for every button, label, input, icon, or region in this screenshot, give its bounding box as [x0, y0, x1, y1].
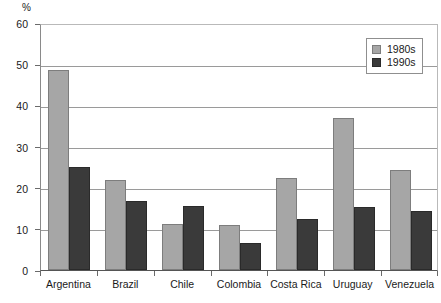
legend-swatch-1980s-icon [372, 45, 381, 54]
bar-chart: % 0102030405060 ArgentinaBrazilChileColo… [0, 0, 441, 303]
x-axis-label-chile: Chile [154, 279, 211, 290]
legend-label-1980s: 1980s [387, 44, 416, 55]
bar-chile-1990s [183, 206, 204, 270]
x-axis-label-uruguay: Uruguay [324, 279, 381, 290]
legend-swatch-1990s-icon [372, 58, 381, 67]
bar-colombia-1990s [240, 243, 261, 270]
x-axis-tick [97, 271, 98, 276]
y-axis-unit-label: % [22, 2, 31, 13]
y-axis-tick-label: 40 [2, 101, 28, 112]
bar-brazil-1980s [105, 180, 126, 270]
bar-brazil-1990s [126, 201, 147, 270]
bar-costa-rica-1990s [297, 219, 318, 270]
bar-costa-rica-1980s [276, 178, 297, 270]
y-axis-tick-label: 60 [2, 19, 28, 30]
y-axis-tick-label: 10 [2, 225, 28, 236]
y-axis-tick-label: 50 [2, 60, 28, 71]
x-axis-label-venezuela: Venezuela [381, 279, 438, 290]
gridline [41, 148, 437, 149]
bar-chile-1980s [162, 224, 183, 270]
x-axis-label-colombia: Colombia [211, 279, 268, 290]
bar-argentina-1990s [69, 167, 90, 270]
x-axis-tick [437, 271, 438, 276]
x-axis-tick [324, 271, 325, 276]
y-axis-tick-label: 20 [2, 184, 28, 195]
legend-label-1990s: 1990s [387, 57, 416, 68]
y-axis-tick-label: 0 [2, 266, 28, 277]
chart-legend: 1980s 1990s [366, 38, 423, 74]
x-axis-tick [267, 271, 268, 276]
x-axis-tick [211, 271, 212, 276]
legend-item-1990s: 1990s [372, 56, 416, 69]
bar-argentina-1980s [48, 70, 69, 270]
legend-item-1980s: 1980s [372, 43, 416, 56]
x-axis-tick [154, 271, 155, 276]
x-axis-label-argentina: Argentina [40, 279, 97, 290]
gridline [41, 189, 437, 190]
x-axis-tick [40, 271, 41, 276]
bar-uruguay-1990s [354, 207, 375, 270]
y-axis-tick-label: 30 [2, 143, 28, 154]
bar-venezuela-1990s [411, 211, 432, 270]
x-axis-label-brazil: Brazil [97, 279, 154, 290]
x-axis-tick [381, 271, 382, 276]
bar-venezuela-1980s [390, 170, 411, 270]
gridline [41, 107, 437, 108]
bar-colombia-1980s [219, 225, 240, 270]
bar-uruguay-1980s [333, 118, 354, 270]
x-axis-label-costa-rica: Costa Rica [267, 279, 324, 290]
